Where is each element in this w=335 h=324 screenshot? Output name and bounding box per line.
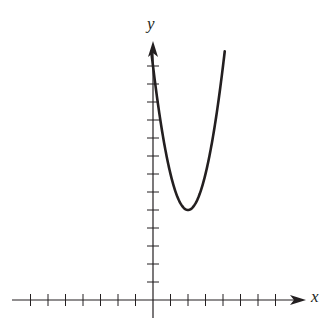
parabola-curve xyxy=(151,51,225,210)
y-axis-label: y xyxy=(147,14,155,34)
parabola-graph xyxy=(0,0,335,324)
x-axis-label: x xyxy=(311,287,319,307)
axes xyxy=(12,41,306,318)
